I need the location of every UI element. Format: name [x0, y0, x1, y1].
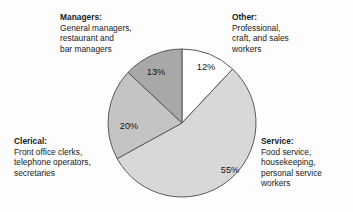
callout-managers: Managers: General managers, restaurant a… [60, 12, 132, 54]
callout-other-heading: Other: [232, 12, 289, 23]
callout-managers-line-3: bar managers [60, 44, 132, 55]
callout-service-heading: Service: [261, 136, 322, 147]
callout-service: Service: Food service, housekeeping, per… [261, 136, 322, 189]
pie-slice-label-clerical: 20% [120, 121, 138, 131]
pie-slice-label-service: 55% [221, 165, 239, 175]
callout-service-line-2: housekeeping, [261, 157, 322, 168]
callout-managers-heading: Managers: [60, 12, 132, 23]
callout-clerical: Clerical: Front office clerks, telephone… [14, 136, 91, 178]
callout-clerical-line-1: Front office clerks, [14, 147, 91, 158]
callout-other: Other: Professional, craft, and sales wo… [232, 12, 289, 54]
callout-clerical-line-3: secretaries [14, 168, 91, 179]
callout-other-line-2: craft, and sales [232, 33, 289, 44]
callout-service-line-4: workers [261, 178, 322, 189]
callout-other-line-1: Professional, [232, 23, 289, 34]
callout-service-line-1: Food service, [261, 147, 322, 158]
pie-slice-label-managers: 13% [147, 67, 165, 77]
callout-clerical-line-2: telephone operators, [14, 157, 91, 168]
pie-chart-figure: 12%55%20%13% Managers: General managers,… [0, 0, 353, 212]
callout-managers-line-2: restaurant and [60, 33, 132, 44]
pie-slice-label-other: 12% [197, 62, 215, 72]
callout-managers-line-1: General managers, [60, 23, 132, 34]
callout-service-line-3: personal service [261, 168, 322, 179]
callout-other-line-3: workers [232, 44, 289, 55]
callout-clerical-heading: Clerical: [14, 136, 91, 147]
